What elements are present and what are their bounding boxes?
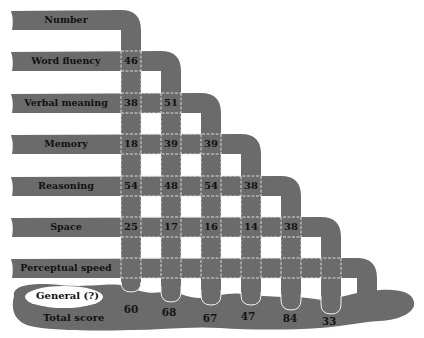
row-label-perceptual-speed: Perceptual speed bbox=[11, 258, 121, 278]
total-c2: 68 bbox=[157, 306, 181, 318]
value-reasoning-c1: 54 bbox=[121, 176, 141, 196]
value-space-c2: 17 bbox=[161, 217, 181, 237]
value-space-c4: 14 bbox=[241, 217, 261, 237]
row-label-verbal-meaning: Verbal meaning bbox=[11, 93, 121, 113]
value-reasoning-c3: 54 bbox=[201, 176, 221, 196]
total-score-label: Total score bbox=[43, 312, 104, 323]
value-memory-c1: 18 bbox=[121, 134, 141, 154]
row-label-memory: Memory bbox=[11, 134, 121, 154]
factor-diagram: Number Word fluency Verbal meaning Memor… bbox=[0, 0, 424, 338]
value-memory-c3: 39 bbox=[201, 134, 221, 154]
value-verbal-meaning-c2: 51 bbox=[161, 93, 181, 113]
total-c3: 67 bbox=[198, 312, 222, 324]
value-reasoning-c4: 38 bbox=[241, 176, 261, 196]
value-verbal-meaning-c1: 38 bbox=[121, 93, 141, 113]
total-c1: 60 bbox=[119, 303, 143, 315]
value-reasoning-c2: 48 bbox=[161, 176, 181, 196]
row-label-word-fluency: Word fluency bbox=[11, 51, 121, 71]
value-space-c5: 38 bbox=[281, 217, 301, 237]
general-label: General (?) bbox=[36, 290, 99, 301]
total-c5: 84 bbox=[278, 312, 302, 324]
value-space-c3: 16 bbox=[201, 217, 221, 237]
value-space-c1: 25 bbox=[121, 217, 141, 237]
value-memory-c2: 39 bbox=[161, 134, 181, 154]
row-label-reasoning: Reasoning bbox=[11, 176, 121, 196]
value-word-fluency-c1: 46 bbox=[121, 51, 141, 71]
total-c4: 47 bbox=[236, 310, 260, 322]
crossing-dividers bbox=[121, 51, 341, 278]
row-label-space: Space bbox=[11, 217, 121, 237]
total-c6: 33 bbox=[317, 315, 341, 327]
row-label-number: Number bbox=[11, 10, 121, 30]
